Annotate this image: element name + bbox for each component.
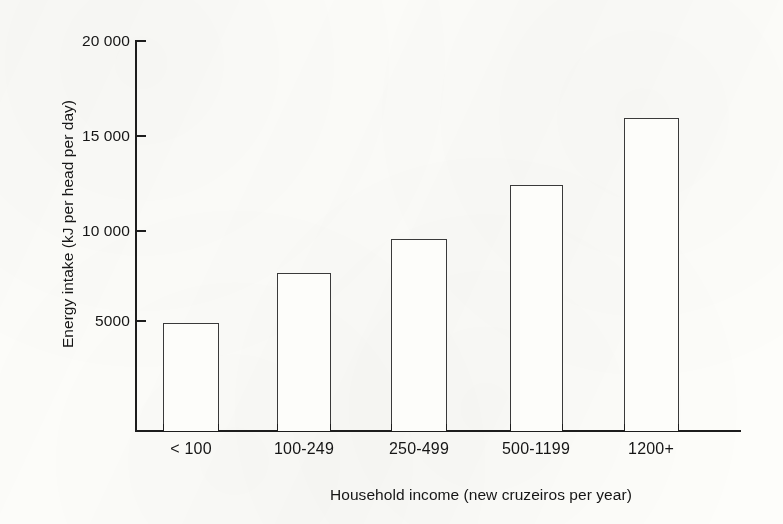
y-tick-label-15000: 15 000 — [82, 127, 130, 145]
x-tick-mark-2a — [277, 424, 278, 431]
bar-500-1199 — [510, 185, 563, 431]
y-axis-line — [135, 40, 137, 432]
x-tick-mark-1a — [163, 424, 164, 431]
y-tick-mark-20000 — [137, 40, 146, 42]
y-tick-mark-10000 — [137, 230, 146, 232]
x-tick-mark-2b — [330, 424, 331, 431]
x-tick-mark-1b — [218, 424, 219, 431]
x-tick-mark-4a — [510, 424, 511, 431]
y-tick-mark-5000 — [137, 320, 146, 322]
bar-1200-plus — [624, 118, 679, 431]
bar-250-499 — [391, 239, 447, 431]
bar-lt-100 — [163, 323, 219, 431]
x-tick-mark-4b — [562, 424, 563, 431]
x-category-label-lt-100: < 100 — [141, 440, 241, 458]
x-category-label-500-1199: 500-1199 — [486, 440, 586, 458]
x-category-label-1200-plus: 1200+ — [601, 440, 701, 458]
x-category-label-250-499: 250-499 — [369, 440, 469, 458]
x-category-label-100-249: 100-249 — [254, 440, 354, 458]
y-tick-label-20000: 20 000 — [82, 32, 130, 50]
x-tick-mark-5a — [624, 424, 625, 431]
x-axis-title: Household income (new cruzeiros per year… — [330, 486, 632, 504]
y-tick-label-5000: 5000 — [95, 312, 130, 330]
y-axis-title: Energy intake (kJ per head per day) — [59, 39, 77, 409]
y-tick-label-10000: 10 000 — [82, 222, 130, 240]
x-tick-mark-5b — [678, 424, 679, 431]
x-tick-mark-3a — [391, 424, 392, 431]
bar-chart-figure: Energy intake (kJ per head per day) 20 0… — [0, 0, 783, 524]
x-tick-mark-3b — [446, 424, 447, 431]
y-tick-mark-15000 — [137, 135, 146, 137]
bar-100-249 — [277, 273, 331, 431]
